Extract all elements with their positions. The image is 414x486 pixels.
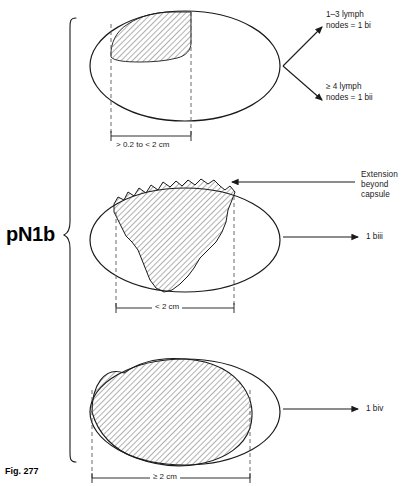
stage-brace xyxy=(64,18,76,462)
arrow-to-1bi xyxy=(283,27,322,66)
panel-1-graphic xyxy=(90,11,322,141)
outcome-label-1bii-line1: ≥ 4 lymph xyxy=(326,82,361,91)
dimension-label-panel-2: < 2 cm xyxy=(152,302,182,311)
lymph-node-staging-diagram xyxy=(0,0,414,486)
figure-caption: Fig. 277 xyxy=(5,466,39,476)
annotation-extension-line1: Extension xyxy=(361,170,398,181)
outcome-label-1bi-line2: nodes = 1 bi xyxy=(326,21,371,30)
dimension-label-panel-1: > 0.2 to < 2 cm xyxy=(113,140,172,149)
figure-root: pN1b 1–3 lymph nodes = 1 bi ≥ 4 lymph no… xyxy=(0,0,414,486)
outcome-label-1bii-line2: nodes = 1 bii xyxy=(326,93,373,102)
outcome-label-1bi-line1: 1–3 lymph xyxy=(326,10,364,19)
dimension-label-panel-3: ≥ 2 cm xyxy=(150,472,180,481)
outcome-label-1biv: 1 biv xyxy=(366,404,383,413)
annotation-extension-line3: capsule xyxy=(361,190,390,201)
outcome-label-1biii: 1 biii xyxy=(366,232,383,241)
annotation-extension-line2: beyond xyxy=(361,180,388,191)
stage-label-pn1b: pN1b xyxy=(6,223,55,246)
metastatic-mass-3 xyxy=(92,358,252,465)
arrow-to-1bii xyxy=(283,66,322,100)
metastatic-deposit-1 xyxy=(111,12,191,62)
panel-3-graphic xyxy=(90,358,358,483)
panel-2-graphic xyxy=(90,179,358,313)
